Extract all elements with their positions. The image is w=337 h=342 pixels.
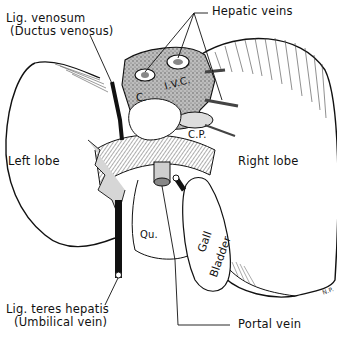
label-right-lobe: Right lobe <box>238 155 299 168</box>
label-umbilical-vein: (Umbilical vein) <box>14 316 107 329</box>
ligamentum-venosum-cord <box>112 82 122 140</box>
label-portal-vein: Portal vein <box>238 318 301 331</box>
caudate-lobe <box>129 99 181 140</box>
ligamentum-teres-cord <box>115 200 122 278</box>
label-hepatic-veins: Hepatic veins <box>212 5 293 18</box>
liver-illustration <box>0 0 337 342</box>
quadrate-lobe <box>132 180 190 259</box>
liver-diagram: Lig. venosum (Ductus venosus) Hepatic ve… <box>0 0 337 342</box>
label-left-lobe: Left lobe <box>8 155 60 168</box>
label-quadrate-lobe: Qu. <box>140 228 158 241</box>
label-caudate: C. <box>136 91 147 104</box>
label-ductus-venosus: (Ductus venosus) <box>10 25 114 38</box>
label-caudate-process: C.P. <box>188 128 207 141</box>
